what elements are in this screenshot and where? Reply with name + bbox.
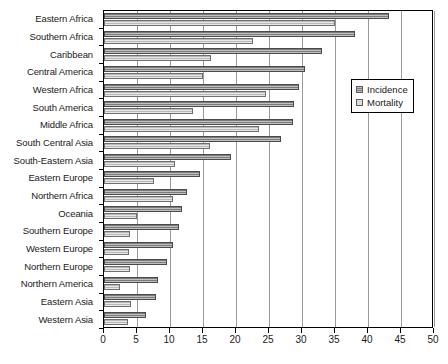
bar-row [104,46,432,64]
bar-row [104,152,432,170]
x-axis-tick [169,328,170,333]
bar-chart: Eastern AfricaSouthern AfricaCaribbeanCe… [0,0,448,364]
bar-row [104,239,432,257]
bar-mortality [104,266,130,272]
bar-row [104,274,432,292]
bar-mortality [104,231,130,237]
y-axis-label: Western Europe [0,240,98,258]
bar-mortality [104,319,128,325]
y-axis-label: Northern Europe [0,257,98,275]
bar-incidence [104,84,299,90]
plot-area [103,10,433,328]
bar-incidence [104,206,182,212]
bar-incidence [104,259,167,265]
y-axis-label: Southern Europe [0,222,98,240]
bar-incidence [104,154,231,160]
y-axis-label: Middle Africa [0,116,98,134]
y-axis-tick [99,63,103,64]
bar-mortality [104,73,203,79]
bar-mortality [104,55,211,61]
x-axis-tick [433,328,434,333]
bar-mortality [104,213,137,219]
x-axis-tick-label: 15 [196,334,207,345]
x-axis-tick [268,328,269,333]
x-axis-tick-label: 10 [163,334,174,345]
bar-incidence [104,277,158,283]
y-axis-tick [99,204,103,205]
bar-mortality [104,196,173,202]
x-axis-ticks [103,328,433,333]
bar-row [104,310,432,328]
y-axis-labels: Eastern AfricaSouthern AfricaCaribbeanCe… [0,10,98,328]
bar-incidence [104,171,200,177]
y-axis-label: Oceania [0,204,98,222]
bar-rows [104,11,432,327]
bar-row [104,222,432,240]
y-axis-tick [99,134,103,135]
y-axis-tick [99,28,103,29]
y-axis-tick [99,98,103,99]
bar-mortality [104,143,210,149]
x-axis-tick [235,328,236,333]
x-axis-tick [136,328,137,333]
y-axis-tick [99,151,103,152]
y-axis-tick [99,81,103,82]
x-axis-tick-label: 20 [229,334,240,345]
y-axis-label: Caribbean [0,45,98,63]
x-axis-tick [400,328,401,333]
y-axis-tick [99,45,103,46]
x-axis-tick [301,328,302,333]
y-axis-tick [99,169,103,170]
bar-mortality [104,301,131,307]
bar-row [104,292,432,310]
y-axis-label: South Central Asia [0,134,98,152]
bar-incidence [104,224,179,230]
bar-incidence [104,294,156,300]
y-axis-tick [99,257,103,258]
x-axis-tick-label: 35 [328,334,339,345]
bar-row [104,116,432,134]
y-axis-tick [99,310,103,311]
x-axis-labels: 05101520253035404550 [103,334,433,350]
chart-legend: Incidence Mortality [351,79,414,113]
bar-row [104,187,432,205]
bar-incidence [104,119,293,125]
y-axis-label: Eastern Europe [0,169,98,187]
x-axis-tick-label: 5 [133,334,139,345]
y-axis-label: South America [0,98,98,116]
bar-incidence [104,66,305,72]
bar-incidence [104,13,389,19]
legend-item-mortality: Mortality [356,96,408,109]
bar-incidence [104,48,322,54]
bar-mortality [104,126,259,132]
y-axis-label: Eastern Asia [0,293,98,311]
gridline [434,11,435,327]
bar-incidence [104,312,146,318]
x-axis-tick-label: 0 [100,334,106,345]
y-axis-tick [99,116,103,117]
bar-row [104,134,432,152]
legend-label-mortality: Mortality [367,96,403,109]
bar-incidence [104,101,294,107]
bar-row [104,169,432,187]
y-axis-label: Southern Africa [0,28,98,46]
legend-item-incidence: Incidence [356,83,408,96]
bar-row [104,204,432,222]
x-axis-tick [202,328,203,333]
bar-row [104,257,432,275]
y-axis-label: Western Africa [0,81,98,99]
y-axis-label: Western Asia [0,310,98,328]
y-axis-tick [99,222,103,223]
bar-mortality [104,284,120,290]
legend-swatch-incidence-icon [356,86,363,93]
bar-incidence [104,189,187,195]
bar-mortality [104,161,175,167]
legend-label-incidence: Incidence [367,83,408,96]
y-axis-tick [99,328,103,329]
bar-mortality [104,38,253,44]
bar-row [104,29,432,47]
y-axis-label: Eastern Africa [0,10,98,28]
y-axis-tick [99,240,103,241]
x-axis-tick [334,328,335,333]
x-axis-tick [103,328,104,333]
